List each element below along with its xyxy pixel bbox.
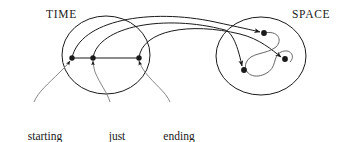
space-point-top [261, 30, 267, 36]
space-point-left [241, 67, 247, 73]
ending-time-label: ending time [152, 105, 206, 142]
ending-time-label-line1: ending [152, 130, 206, 142]
mapping-arrow-just-later-to-left [93, 23, 242, 66]
just-later-label: just later [96, 105, 138, 142]
time-point-starting [69, 55, 74, 60]
leader-line-just-later [93, 61, 110, 102]
just-later-label-line1: just [96, 130, 138, 142]
space-trajectory-path [245, 32, 292, 76]
time-point-just-later [90, 55, 95, 60]
space-point-right [282, 56, 288, 62]
time-space-diagram: TIME SPACE starting time just later endi… [0, 0, 345, 142]
leader-line-ending-time [139, 61, 170, 102]
starting-time-label: starting time [14, 105, 76, 142]
time-region-label: TIME [46, 8, 77, 20]
time-region-ellipse [62, 16, 150, 94]
time-point-ending [136, 55, 141, 60]
space-region-label: SPACE [292, 8, 330, 20]
leader-line-starting-time [34, 61, 70, 102]
starting-time-label-line1: starting [14, 130, 76, 142]
